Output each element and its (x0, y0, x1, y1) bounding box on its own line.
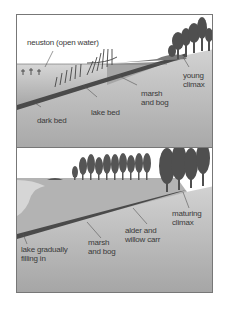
alder-willow-carr-label-line2: willow carr (125, 235, 160, 244)
alder-willow-carr-trees (47, 153, 151, 180)
alder-willow-carr-label-line1: alder and (125, 226, 157, 235)
marsh-bog-label-line1: marsh (141, 89, 162, 98)
maturing-climax-label-line1: maturing (172, 209, 202, 218)
marsh-bog-label-line1: marsh (88, 238, 109, 247)
stage-1-panel: neuston (open water) dark bed lake bed m… (16, 14, 213, 148)
maturing-climax-label-line2: climax (172, 218, 193, 227)
young-climax-label-line2: climax (183, 80, 204, 89)
lake-filling-label-line1: lake gradually (21, 245, 68, 254)
lake-bed-label: lake bed (91, 108, 120, 117)
neuston-label: neuston (open water) (27, 38, 99, 47)
maturing-climax-trees (159, 148, 210, 192)
young-climax-label-line1: young (183, 71, 204, 80)
stage-2-panel: lake gradually filling in marsh and bog … (16, 147, 213, 293)
dark-bed-label: dark bed (37, 116, 67, 125)
lake-filling-label-line2: filling in (21, 254, 46, 263)
marsh-bog-label-line2: and bog (141, 98, 169, 107)
marsh-bog-label-line2: and bog (88, 247, 116, 256)
